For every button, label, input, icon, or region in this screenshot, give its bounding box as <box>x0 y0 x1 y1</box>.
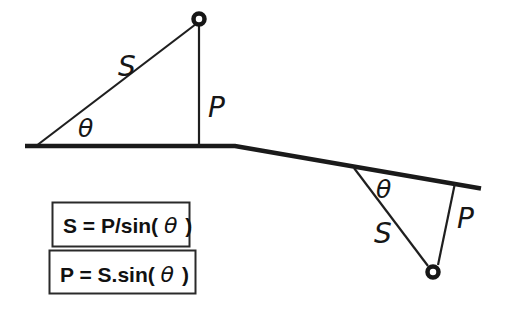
formula-s-prefix: S = P/sin( <box>63 214 158 237</box>
upper-s-label: S <box>118 50 136 83</box>
formula-p-text: P = S.sin( θ ) <box>60 262 189 287</box>
lower-theta-label: θ <box>376 175 391 204</box>
lower-s-label: S <box>374 217 392 250</box>
formula-s-text: S = P/sin( θ ) <box>63 213 192 238</box>
formula-s-theta-symbol: θ <box>164 213 178 238</box>
formula-p-theta-symbol: θ <box>161 262 175 287</box>
ramp-trig-diagram: S P θ θ S P S = P/sin( θ ) P = S.sin( θ … <box>0 0 506 314</box>
formula-p-prefix: P = S.sin( <box>60 263 155 286</box>
formula-s-suffix: ) <box>185 214 192 237</box>
lower-p-label: P <box>457 202 474 235</box>
upper-p-label: P <box>208 91 225 124</box>
upper-ring-node <box>194 14 205 25</box>
diagram-canvas: S P θ θ S P S = P/sin( θ ) P = S.sin( θ … <box>0 0 506 314</box>
upper-theta-label: θ <box>78 114 93 143</box>
lower-ring-node <box>428 267 439 278</box>
formula-p-suffix: ) <box>182 263 189 286</box>
